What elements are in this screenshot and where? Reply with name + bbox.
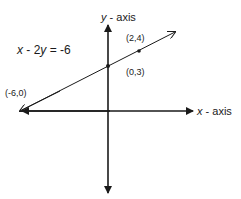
y-axis-label: y - axis [101, 11, 136, 23]
equation-label: x - 2y = -6 [17, 43, 71, 57]
point-y-intercept [106, 64, 110, 68]
point-2-4 [137, 49, 141, 53]
point-label-y-intercept: (0,3) [126, 67, 145, 77]
point-label-x-intercept: (-6,0) [5, 88, 27, 98]
point-label-2-4: (2,4) [126, 33, 145, 43]
coordinate-graph [0, 0, 241, 199]
x-axis-label: x - axis [197, 105, 232, 117]
